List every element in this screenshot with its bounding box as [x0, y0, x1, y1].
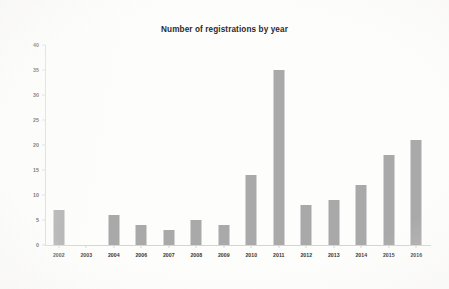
x-axis-tick-label: 2013 — [328, 252, 340, 258]
x-axis-tick-label: 2003 — [80, 252, 92, 258]
bar — [301, 205, 312, 245]
x-axis-tick-label: 2012 — [300, 252, 312, 258]
chart-title: Number of registrations by year — [0, 25, 449, 34]
bar — [191, 220, 202, 245]
x-axis-tick-label: 2010 — [245, 252, 257, 258]
bar-group: 2016 — [403, 45, 431, 245]
y-axis-line — [45, 45, 46, 246]
y-axis-tick-label: 30 — [33, 92, 39, 98]
bar-group: 2004 — [100, 45, 128, 245]
y-axis-tick-label: 15 — [33, 167, 39, 173]
bar-chart-figure: Number of registrations by year 40353025… — [0, 0, 449, 289]
x-axis-line — [45, 245, 431, 246]
bar-group: 2011 — [265, 45, 293, 245]
bar-group: 2012 — [293, 45, 321, 245]
bar — [108, 215, 119, 245]
plot-area: 4035302520151050200220032004200620072008… — [45, 45, 430, 245]
bar-group: 2008 — [183, 45, 211, 245]
x-axis-tick-label: 2016 — [410, 252, 422, 258]
bar-group: 2014 — [348, 45, 376, 245]
bar-group: 2010 — [238, 45, 266, 245]
bar-group: 2003 — [73, 45, 101, 245]
y-axis-tick-label: 0 — [36, 242, 39, 248]
bar-group: 2013 — [320, 45, 348, 245]
x-axis-tick-label: 2015 — [383, 252, 395, 258]
bar — [356, 185, 367, 245]
x-axis-tick-label: 2014 — [355, 252, 367, 258]
bar-group: 2006 — [128, 45, 156, 245]
bar — [218, 225, 229, 245]
y-axis-tick-label: 25 — [33, 117, 39, 123]
x-axis-tick-label: 2006 — [135, 252, 147, 258]
y-axis-tick-label: 35 — [33, 67, 39, 73]
y-axis-tick-label: 10 — [33, 192, 39, 198]
bar — [328, 200, 339, 245]
y-axis-tick-label: 5 — [36, 217, 39, 223]
bar — [383, 155, 394, 245]
bar-group: 2015 — [375, 45, 403, 245]
bar — [246, 175, 257, 245]
bar-group: 2002 — [45, 45, 73, 245]
x-axis-tick-label: 2007 — [163, 252, 175, 258]
bar-group: 2007 — [155, 45, 183, 245]
bar — [136, 225, 147, 245]
bar-group: 2009 — [210, 45, 238, 245]
x-axis-tick-label: 2008 — [190, 252, 202, 258]
x-axis-tick-label: 2011 — [273, 252, 284, 258]
bar — [53, 210, 64, 245]
y-axis-tick-label: 20 — [33, 142, 39, 148]
y-axis-tick-label: 40 — [33, 42, 39, 48]
x-axis-tick-label: 2009 — [218, 252, 230, 258]
x-axis-tick-label: 2002 — [53, 252, 65, 258]
bar — [273, 70, 284, 245]
bar — [163, 230, 174, 245]
x-axis-tick-label: 2004 — [108, 252, 120, 258]
bar — [411, 140, 422, 245]
